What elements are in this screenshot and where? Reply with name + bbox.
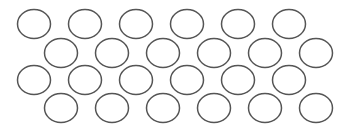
circle-outline [69, 10, 102, 39]
circle-grid [0, 0, 348, 130]
circle-row-1 [18, 10, 306, 39]
circle-outline [198, 94, 231, 123]
circle-outline [18, 66, 51, 95]
circle-outline [147, 94, 180, 123]
circle-outline [249, 39, 282, 68]
circle-outline [69, 66, 102, 95]
circle-outline [120, 10, 153, 39]
circle-row-3 [18, 66, 306, 95]
circle-outline [300, 94, 333, 123]
circle-outline [198, 39, 231, 68]
circle-row-4 [45, 94, 333, 123]
circle-outline [45, 94, 78, 123]
circle-outline [18, 10, 51, 39]
circle-outline [171, 10, 204, 39]
circle-outline [147, 39, 180, 68]
circle-outline [222, 10, 255, 39]
circle-outline [249, 94, 282, 123]
circle-outline [273, 66, 306, 95]
circle-outline [300, 39, 333, 68]
circle-outline [171, 66, 204, 95]
circle-row-2 [45, 39, 333, 68]
circle-outline [273, 10, 306, 39]
circle-outline [96, 39, 129, 68]
circle-outline [96, 94, 129, 123]
circle-outline [120, 66, 153, 95]
circle-outline [222, 66, 255, 95]
circle-outline [45, 39, 78, 68]
circle-grid-figure [0, 0, 348, 130]
